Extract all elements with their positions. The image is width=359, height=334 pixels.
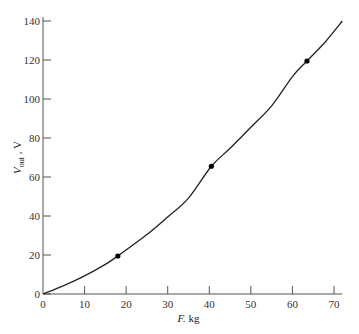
data-point (209, 164, 214, 169)
x-axis-label: F. kg (177, 312, 200, 324)
data-point (304, 58, 309, 63)
data-curve (43, 21, 342, 294)
y-tick-label: 60 (29, 171, 41, 183)
x-tick-label: 30 (162, 298, 174, 310)
x-tick-label: 0 (40, 298, 46, 310)
x-tick-label: 20 (121, 298, 133, 310)
x-tick-label: 10 (79, 298, 91, 310)
y-tick-label: 80 (29, 132, 41, 144)
data-point (115, 253, 120, 258)
y-tick-label: 140 (24, 15, 41, 27)
x-tick-label: 60 (287, 298, 299, 310)
x-tick-label: 50 (245, 298, 257, 310)
chart: 020406080100120140010203040506070F. kgVo… (0, 0, 359, 334)
y-axis-label: Vout , V (11, 141, 26, 174)
x-tick-label: 40 (204, 298, 216, 310)
y-tick-label: 120 (24, 54, 41, 66)
y-tick-label: 100 (24, 93, 41, 105)
x-tick-label: 70 (329, 298, 341, 310)
y-tick-label: 40 (29, 210, 41, 222)
y-tick-label: 20 (29, 249, 41, 261)
